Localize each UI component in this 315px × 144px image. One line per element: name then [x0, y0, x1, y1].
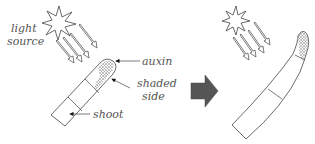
phototropism-diagram: light source auxin shaded side shoot [0, 0, 315, 144]
light-source-label-1: light [11, 22, 37, 35]
sun-star-icon [222, 6, 250, 35]
before-panel: light source auxin shaded side shoot [7, 6, 177, 126]
auxin-label: auxin [142, 55, 172, 68]
after-panel [222, 6, 309, 139]
shaded-side-label-1: shaded [137, 77, 177, 90]
shaded-side-label-2: side [142, 90, 165, 103]
shoot-label: shoot [93, 108, 124, 121]
light-source-label-2: source [7, 35, 45, 48]
bent-shoot [232, 32, 309, 140]
right-arrow-icon [191, 75, 218, 107]
